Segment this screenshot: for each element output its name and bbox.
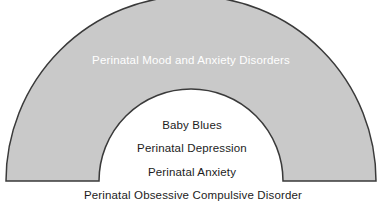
inner-item-label-perinatal-depression: Perinatal Depression bbox=[137, 142, 247, 154]
outer-band-label: Perinatal Mood and Anxiety Disorders bbox=[92, 54, 290, 66]
bottom-caption-label: Perinatal Obsessive Compulsive Disorder bbox=[84, 189, 302, 201]
inner-item-label-perinatal-anxiety: Perinatal Anxiety bbox=[148, 166, 236, 178]
diagram-container: Perinatal Mood and Anxiety Disorders Bab… bbox=[0, 0, 386, 203]
inner-item-label-baby-blues: Baby Blues bbox=[162, 119, 222, 131]
